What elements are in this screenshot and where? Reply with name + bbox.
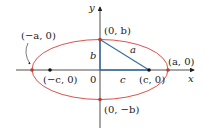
segment-b-label: b: [90, 51, 96, 61]
label-pos-b: (0, b): [104, 26, 131, 36]
pointer-arrow: [26, 43, 30, 64]
point-pos-a: [166, 68, 170, 72]
label-neg-b: (0, −b): [104, 105, 139, 115]
segment-c-label: c: [120, 75, 126, 85]
x-axis-label: x: [188, 74, 194, 84]
ellipse-diagram: y x (0, b) (0, −b) (−a, 0) (a, 0) (−c, 0…: [0, 0, 205, 131]
point-neg-b: [98, 98, 102, 102]
segment-a-label: a: [130, 45, 136, 55]
label-pos-a: (a, 0): [168, 57, 194, 67]
point-neg-a: [30, 68, 34, 72]
segment-a: [100, 40, 149, 71]
point-pos-b: [98, 38, 102, 42]
origin-label: 0: [90, 75, 96, 85]
label-pos-c: (c, 0): [139, 75, 165, 85]
point-pos-c: [147, 68, 151, 72]
label-neg-c: (−c, 0): [43, 75, 78, 85]
label-neg-a: (−a, 0): [21, 31, 56, 41]
y-axis-label: y: [89, 3, 95, 13]
point-neg-c: [48, 68, 52, 72]
